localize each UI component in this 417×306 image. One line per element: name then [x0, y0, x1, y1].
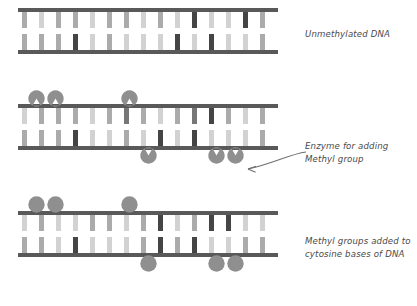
dna-base-rung: [209, 12, 214, 28]
enzyme-shape: [121, 90, 138, 107]
dna-base-rung: [90, 215, 95, 231]
dna-base-rung: [209, 130, 214, 146]
dna-base-rung: [56, 237, 61, 253]
methyl-group-shape: [28, 196, 45, 213]
dna-base-rung: [158, 130, 163, 146]
dna-base-rung: [260, 34, 265, 50]
dna-base-row-top: [18, 215, 278, 231]
dna-base-rung: [141, 130, 146, 146]
dna-base-rung: [192, 237, 197, 253]
dna-base-rung: [226, 12, 231, 28]
dna-base-rung: [158, 34, 163, 50]
dna-base-rung: [243, 108, 248, 124]
dna-base-rung: [22, 108, 27, 124]
dna-base-rung: [39, 237, 44, 253]
dna-base-rung: [175, 12, 180, 28]
dna-base-rung: [243, 34, 248, 50]
dna-base-rung: [90, 34, 95, 50]
label-unmethylated-dna: Unmethylated DNA: [305, 28, 390, 41]
methyl-group-shape: [121, 196, 138, 213]
dna-base-rung: [260, 215, 265, 231]
dna-base-rung: [158, 108, 163, 124]
dna-base-rung: [22, 215, 27, 231]
dna-base-rung: [158, 12, 163, 28]
dna-panel-methylated: [18, 211, 278, 257]
dna-strand: [18, 104, 278, 150]
dna-base-rung: [107, 237, 112, 253]
dna-base-rung: [226, 108, 231, 124]
dna-base-rung: [141, 237, 146, 253]
methyl-group-shape: [140, 255, 157, 272]
dna-base-rung: [175, 108, 180, 124]
dna-base-rung: [192, 108, 197, 124]
dna-base-rung: [73, 130, 78, 146]
dna-base-rung: [243, 237, 248, 253]
dna-base-row-bottom: [18, 130, 278, 146]
dna-base-rung: [209, 215, 214, 231]
dna-base-rung: [124, 215, 129, 231]
dna-panel-unmethylated: [18, 8, 278, 54]
dna-base-rung: [175, 215, 180, 231]
dna-base-rung: [107, 12, 112, 28]
dna-base-rung: [22, 237, 27, 253]
dna-base-row-top: [18, 12, 278, 28]
dna-base-rung: [158, 237, 163, 253]
enzyme-callout-arrow: [234, 148, 308, 178]
dna-base-rung: [56, 34, 61, 50]
dna-base-rung: [209, 34, 214, 50]
dna-base-rung: [39, 130, 44, 146]
dna-base-rung: [141, 215, 146, 231]
dna-base-rung: [73, 215, 78, 231]
dna-strand: [18, 211, 278, 257]
dna-base-rung: [260, 130, 265, 146]
dna-base-rung: [73, 34, 78, 50]
dna-base-rung: [226, 130, 231, 146]
dna-base-rung: [192, 215, 197, 231]
diagram-canvas: Unmethylated DNA Enzyme for adding Methy…: [0, 0, 417, 306]
dna-base-rung: [175, 34, 180, 50]
dna-backbone-bottom: [18, 50, 278, 54]
dna-base-rung: [22, 34, 27, 50]
dna-base-row-bottom: [18, 34, 278, 50]
dna-base-rung: [22, 130, 27, 146]
dna-base-rung: [90, 108, 95, 124]
dna-base-rung: [124, 34, 129, 50]
dna-panel-enzyme: [18, 104, 278, 150]
dna-base-rung: [124, 12, 129, 28]
dna-base-rung: [90, 12, 95, 28]
dna-base-rung: [141, 12, 146, 28]
dna-base-rung: [124, 108, 129, 124]
dna-base-rung: [192, 12, 197, 28]
dna-base-rung: [107, 34, 112, 50]
dna-base-rung: [39, 12, 44, 28]
dna-base-rung: [73, 12, 78, 28]
dna-base-rung: [260, 108, 265, 124]
dna-base-rung: [175, 130, 180, 146]
label-methyl-groups-added: Methyl groups added to cytosine bases of…: [305, 235, 411, 260]
dna-base-rung: [226, 237, 231, 253]
dna-base-rung: [56, 215, 61, 231]
dna-base-rung: [56, 130, 61, 146]
dna-base-rung: [107, 108, 112, 124]
methyl-group-shape: [227, 255, 244, 272]
dna-base-rung: [260, 12, 265, 28]
dna-strand: [18, 8, 278, 54]
dna-base-rung: [192, 130, 197, 146]
dna-base-rung: [175, 237, 180, 253]
dna-base-rung: [124, 237, 129, 253]
dna-base-rung: [107, 130, 112, 146]
dna-base-rung: [56, 108, 61, 124]
dna-base-rung: [90, 237, 95, 253]
label-enzyme-methyl-group: Enzyme for adding Methyl group: [305, 140, 388, 165]
dna-base-rung: [39, 215, 44, 231]
dna-base-rung: [39, 108, 44, 124]
dna-base-rung: [141, 108, 146, 124]
dna-base-rung: [260, 237, 265, 253]
dna-base-rung: [141, 34, 146, 50]
dna-base-rung: [56, 12, 61, 28]
dna-base-row-top: [18, 108, 278, 124]
dna-base-rung: [209, 108, 214, 124]
dna-base-rung: [124, 130, 129, 146]
dna-base-rung: [226, 215, 231, 231]
dna-base-rung: [226, 34, 231, 50]
